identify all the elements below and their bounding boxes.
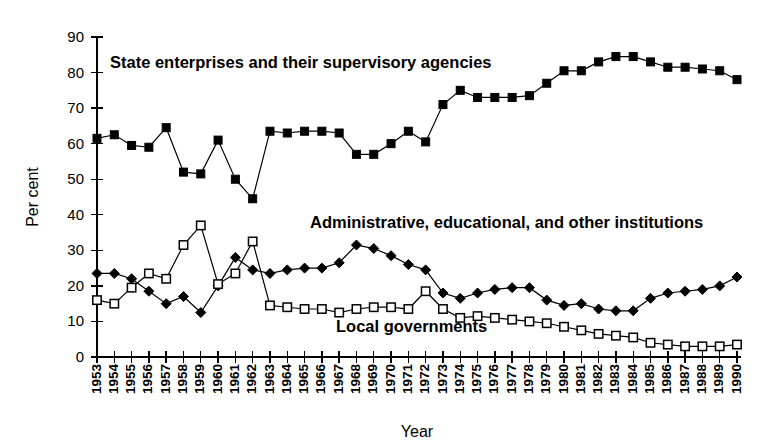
x-axis-tick-label: 1966 xyxy=(313,364,328,395)
data-point-open-square xyxy=(127,283,135,291)
x-axis-tick-label: 1979 xyxy=(538,364,553,394)
data-point-filled-diamond xyxy=(144,286,154,296)
data-point-open-square xyxy=(335,308,343,316)
data-point-filled-diamond xyxy=(663,288,673,298)
y-axis-tick-label: 20 xyxy=(67,277,84,294)
data-point-filled-square xyxy=(629,53,637,61)
chart-figure: 0102030405060708090 19531954195519561957… xyxy=(0,0,778,448)
data-point-filled-diamond xyxy=(646,293,656,303)
y-axis-tick-label: 50 xyxy=(67,170,84,187)
x-axis-tick-label: 1969 xyxy=(365,364,380,394)
data-point-filled-square xyxy=(214,136,222,144)
data-point-filled-diamond xyxy=(576,299,586,309)
data-point-filled-square xyxy=(491,93,499,101)
x-axis-tick-label: 1971 xyxy=(400,364,415,395)
data-point-filled-diamond xyxy=(680,286,690,296)
data-point-filled-diamond xyxy=(282,265,292,275)
data-point-filled-square xyxy=(128,141,136,149)
x-axis-tick-label: 1974 xyxy=(452,364,467,395)
data-point-filled-diamond xyxy=(611,306,621,316)
data-point-filled-diamond xyxy=(542,295,552,305)
data-point-open-square xyxy=(560,323,568,331)
data-point-filled-square xyxy=(93,134,101,142)
x-axis-tick-label: 1983 xyxy=(607,364,622,395)
data-point-filled-square xyxy=(612,53,620,61)
x-axis-tick-label: 1957 xyxy=(158,364,173,394)
data-point-filled-diamond xyxy=(127,274,137,284)
data-point-filled-diamond xyxy=(369,244,379,254)
data-point-open-square xyxy=(439,305,447,313)
data-point-open-square xyxy=(145,269,153,277)
data-point-filled-square xyxy=(231,175,239,183)
x-axis-tick-label: 1985 xyxy=(642,364,657,395)
data-point-filled-square xyxy=(560,67,568,75)
chart-plot-area: 0102030405060708090 19531954195519561957… xyxy=(0,0,778,448)
data-point-filled-diamond xyxy=(490,284,500,294)
data-point-filled-diamond xyxy=(715,281,725,291)
x-axis-tick-label: 1978 xyxy=(521,364,536,395)
x-axis-tick-label: 1965 xyxy=(296,364,311,395)
data-point-filled-diamond xyxy=(524,283,534,293)
data-point-filled-diamond xyxy=(92,268,102,278)
y-axis-group: 0102030405060708090 xyxy=(67,28,103,365)
data-point-filled-square xyxy=(716,67,724,75)
data-point-filled-diamond xyxy=(317,263,327,273)
data-point-filled-square xyxy=(162,124,170,132)
series-2 xyxy=(92,240,742,318)
data-point-open-square xyxy=(110,299,118,307)
data-point-filled-diamond xyxy=(403,260,413,270)
data-point-filled-diamond xyxy=(732,272,742,282)
data-point-filled-diamond xyxy=(455,293,465,303)
data-point-filled-diamond xyxy=(507,283,517,293)
data-point-open-square xyxy=(681,342,689,350)
data-point-open-square xyxy=(197,221,205,229)
data-point-filled-square xyxy=(664,63,672,71)
x-axis-tick-label: 1959 xyxy=(192,364,207,394)
data-point-open-square xyxy=(664,340,672,348)
data-point-filled-square xyxy=(543,79,551,87)
data-point-open-square xyxy=(231,269,239,277)
series-annotation-1: State enterprises and their supervisory … xyxy=(110,53,492,71)
data-point-filled-square xyxy=(681,63,689,71)
x-axis-group: 1953195419551956195719581959196019611962… xyxy=(89,351,744,394)
series-annotation-3: Local governments xyxy=(336,317,487,335)
x-axis-tick-label: 1986 xyxy=(659,364,674,395)
x-axis-tick-label: 1972 xyxy=(417,364,432,394)
data-point-filled-diamond xyxy=(594,304,604,314)
data-point-filled-square xyxy=(577,67,585,75)
data-point-open-square xyxy=(698,342,706,350)
data-point-open-square xyxy=(525,317,533,325)
x-axis-tick-label: 1990 xyxy=(729,364,744,394)
x-axis-tick-label: 1989 xyxy=(711,364,726,394)
data-point-filled-square xyxy=(525,92,533,100)
data-point-filled-square xyxy=(404,127,412,135)
x-axis-tick-label: 1987 xyxy=(677,364,692,394)
data-point-filled-square xyxy=(110,131,118,139)
x-axis-tick-label: 1967 xyxy=(331,364,346,394)
data-point-open-square xyxy=(162,275,170,283)
x-axis-tick-label: 1955 xyxy=(123,364,138,395)
x-axis-tick-label: 1964 xyxy=(279,364,294,395)
y-axis-tick-label: 40 xyxy=(67,206,84,223)
data-point-filled-diamond xyxy=(265,268,275,278)
data-point-filled-square xyxy=(474,93,482,101)
x-axis-tick-label: 1980 xyxy=(556,364,571,394)
data-point-open-square xyxy=(577,326,585,334)
data-point-filled-square xyxy=(733,76,741,84)
data-point-filled-diamond xyxy=(421,265,431,275)
data-point-open-square xyxy=(612,331,620,339)
y-axis-tick-label: 30 xyxy=(67,241,84,258)
data-point-filled-square xyxy=(387,140,395,148)
data-point-filled-square xyxy=(647,58,655,66)
x-axis-title: Year xyxy=(401,423,434,440)
data-point-filled-square xyxy=(370,150,378,158)
data-point-open-square xyxy=(318,305,326,313)
data-point-filled-square xyxy=(266,127,274,135)
x-axis-tick-label: 1958 xyxy=(175,364,190,395)
annotation-layer: State enterprises and their supervisory … xyxy=(110,53,703,335)
y-axis-tick-label: 80 xyxy=(67,64,84,81)
x-axis-tick-label: 1960 xyxy=(210,364,225,394)
data-point-filled-square xyxy=(179,168,187,176)
x-axis-tick-label: 1973 xyxy=(435,364,450,395)
data-point-filled-diamond xyxy=(230,252,240,262)
